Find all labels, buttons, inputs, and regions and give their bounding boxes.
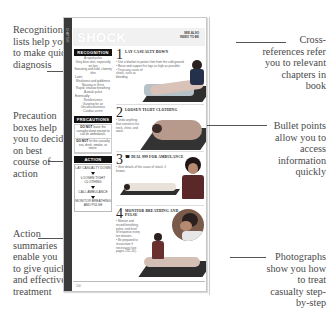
page-banner: SHOCK SEE ALSO INDEX TO BE <box>73 28 205 46</box>
precaution-item: DO NOT leave the casualty alone except t… <box>75 125 111 139</box>
photo-checking-pulse-inset <box>172 209 204 241</box>
action-heading: ACTION <box>74 156 112 163</box>
action-step: LAY CASUALTY DOWN <box>75 167 111 171</box>
leader-crossref <box>236 42 286 43</box>
page-gutter-line <box>209 17 210 295</box>
precaution-item: DO NOT let the casualty eat, drink, smok… <box>75 139 111 153</box>
recognition-list: A rapid pulse Grey-blue skin, especially… <box>74 56 112 116</box>
step-2: 2 LOOSEN TIGHT CLOTHING • Undo anything … <box>116 106 204 152</box>
action-step: CALL AMBULANCE <box>75 191 111 195</box>
callout-bullets: Bullet points allow you to access inform… <box>266 120 326 178</box>
precautions-heading: PRECAUTIONS <box>74 116 112 123</box>
step-text: • Give details of the cause of shock, if… <box>116 166 174 174</box>
chapter-tab-strip: CHAPTER <box>64 18 72 291</box>
photo-lay-casualty-down <box>136 58 204 104</box>
action-step: MONITOR BREATHING AND PULSE <box>75 200 111 208</box>
page-number: 240 <box>76 284 81 288</box>
step-1: 1 LAY CASUALTY DOWN • Use a blanket to p… <box>116 48 204 105</box>
step-title: LAY CASUALTY DOWN <box>125 50 185 54</box>
step-3: 3 ☎ DIAL 999 FOR AMBULANCE • Give detail… <box>116 153 204 206</box>
chapter-tab-label: CHAPTER <box>65 28 69 42</box>
photo-phone-call <box>182 157 204 201</box>
precautions-box: DO NOT leave the casualty alone except t… <box>74 124 112 154</box>
callout-photos: Photographs show you how to treat casual… <box>262 251 326 309</box>
photo-loosen-clothing <box>144 110 204 150</box>
footer-rule <box>73 281 205 282</box>
arrow-down-icon <box>91 186 95 189</box>
leader-photos <box>230 257 266 258</box>
recognition-heading: RECOGNITION <box>74 49 112 56</box>
cross-reference: SEE ALSO INDEX TO BE <box>177 32 199 39</box>
recognition-item: Cardiac arrest <box>74 110 112 114</box>
photo-lying-legs-raised <box>118 177 184 197</box>
action-summary-box: LAY CASUALTY DOWN LOOSEN TIGHT CLOTHING … <box>74 164 112 212</box>
sidebar-column: RECOGNITION A rapid pulse Grey-blue skin… <box>74 49 112 212</box>
action-step: LOOSEN TIGHT CLOTHING <box>75 177 111 185</box>
page-title: SHOCK <box>77 30 126 45</box>
step-title: ☎ DIAL 999 FOR AMBULANCE <box>125 155 185 159</box>
book-page: CHAPTER SHOCK SEE ALSO INDEX TO BE RECOG… <box>63 17 207 292</box>
step-text: • Undo anything that constricts his neck… <box>116 119 140 134</box>
step-4: 4 MONITOR BREATHING AND PULSE • Monitor … <box>116 207 204 279</box>
